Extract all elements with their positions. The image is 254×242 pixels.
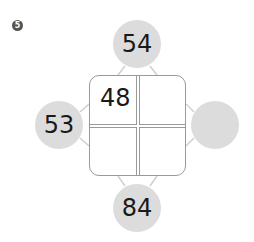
grid-cell-top-right[interactable] bbox=[139, 76, 185, 125]
circle-bottom: 84 bbox=[113, 184, 161, 232]
grid-cell-bottom-right[interactable] bbox=[139, 127, 185, 175]
grid-cell-top-left: 48 bbox=[90, 76, 137, 125]
circle-right[interactable] bbox=[191, 101, 239, 149]
answer-grid: 48 bbox=[89, 75, 186, 176]
grid-cell-bottom-left[interactable] bbox=[90, 127, 137, 175]
circle-top: 54 bbox=[113, 20, 161, 68]
circle-left: 53 bbox=[35, 101, 83, 149]
